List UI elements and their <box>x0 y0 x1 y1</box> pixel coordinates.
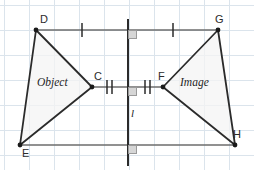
vertex-dot-G <box>216 28 221 33</box>
vertex-dot-F <box>161 85 166 90</box>
right-angle-bottom-icon <box>128 145 136 153</box>
vertex-label-D: D <box>40 14 48 25</box>
vertex-label-E: E <box>22 148 29 159</box>
image-label: Image <box>180 77 209 89</box>
right-angle-top-icon <box>128 30 136 38</box>
vertex-label-C: C <box>94 71 102 82</box>
vertex-label-H: H <box>233 129 241 140</box>
vertex-label-G: G <box>215 14 224 25</box>
right-angle-markers <box>128 30 136 153</box>
vertex-dot-D <box>34 28 39 33</box>
vertex-dot-H <box>233 143 238 148</box>
mirror-line-label: l <box>131 108 134 119</box>
vertex-label-F: F <box>158 71 165 82</box>
reflection-diagram-canvas: D C E F G H Object Image l <box>0 0 254 170</box>
right-angle-middle-icon <box>128 87 136 95</box>
vertex-dot-C <box>90 85 95 90</box>
object-label: Object <box>37 77 68 89</box>
